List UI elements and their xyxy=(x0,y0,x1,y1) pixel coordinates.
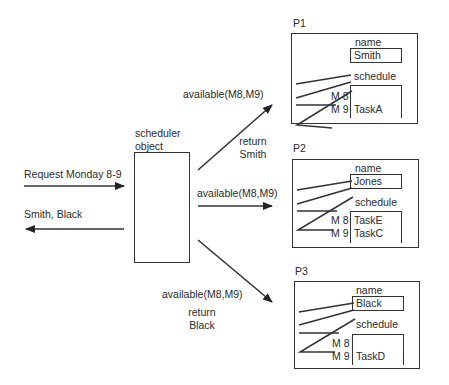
p2-slot-m8-task: TaskE xyxy=(354,214,383,226)
p2-name-field: Jones xyxy=(350,174,402,189)
p2-slot-m9-time: M 9 xyxy=(331,227,349,239)
p3-slot-m9-task: TaskD xyxy=(356,350,385,362)
p3-slot-m8-time: M 8 xyxy=(332,337,350,349)
message-p3-return-line1: return xyxy=(182,306,222,318)
p1-slot-m9-time: M 9 xyxy=(331,103,349,115)
p3-schedule-label: schedule xyxy=(356,318,398,330)
message-p1-return-line1: return xyxy=(233,135,273,147)
p3-name-field: Black xyxy=(352,296,404,311)
p2-slot-m9-task: TaskC xyxy=(354,227,383,239)
scheduler-label-line2: object xyxy=(135,140,163,152)
response-label: Smith, Black xyxy=(24,208,82,220)
message-p1-return-line2: Smith xyxy=(233,148,273,160)
request-label: Request Monday 8-9 xyxy=(24,168,121,180)
p2-id: P2 xyxy=(293,142,306,154)
p1-slot-m8-time: M 8 xyxy=(331,90,349,102)
p1-name-label: name xyxy=(355,36,381,48)
message-p2-call: available(M8,M9) xyxy=(197,187,278,199)
p1-schedule-label: schedule xyxy=(354,70,396,82)
p3-name-label: name xyxy=(356,284,382,296)
p1-slot-m9-task: TaskA xyxy=(354,103,383,115)
p2-name-label: name xyxy=(355,162,381,174)
scheduler-label-line1: scheduler xyxy=(135,127,181,139)
p1-name-field: Smith xyxy=(350,48,402,63)
p3-id: P3 xyxy=(295,265,308,277)
message-p3-call: available(M8,M9) xyxy=(162,288,243,300)
p1-id: P1 xyxy=(293,17,306,29)
p2-slot-m8-time: M 8 xyxy=(331,214,349,226)
message-p1-call: available(M8,M9) xyxy=(183,88,264,100)
p3-slot-m9-time: M 9 xyxy=(332,350,350,362)
scheduler-object-box xyxy=(134,152,190,263)
message-p3-return-line2: Black xyxy=(182,319,222,331)
p2-schedule-label: schedule xyxy=(355,196,397,208)
